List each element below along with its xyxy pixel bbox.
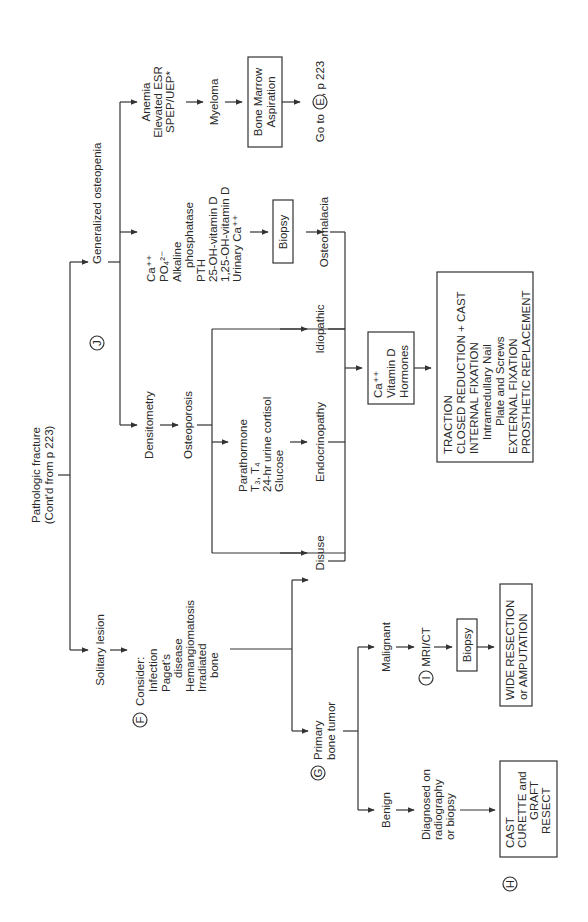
svg-text:Go to: Go to <box>314 114 326 142</box>
malignant-biopsy-label: Biopsy <box>461 627 473 662</box>
svg-text:GRAFT: GRAFT <box>528 781 540 820</box>
bone-marrow-label: Bone Marrow Aspiration <box>252 67 277 136</box>
cause-endocrinopathy: Endocrinopathy <box>314 402 326 482</box>
marker-i: I <box>420 676 432 679</box>
osteoporosis-tests: Parathormone T₃, T₄ 24-hr urine cortisol… <box>237 397 285 492</box>
goto-e: Go to E , p 223 <box>314 61 326 142</box>
osteomalacia: Osteomalacia <box>318 196 330 267</box>
svg-text:CURETTE and: CURETTE and <box>516 771 528 848</box>
svg-text:Elevated ESR: Elevated ESR <box>152 66 164 138</box>
svg-text:CLOSED REDUCTION + CAST: CLOSED REDUCTION + CAST <box>455 291 467 454</box>
svg-text:WIDE RESECTION: WIDE RESECTION <box>504 600 516 700</box>
svg-text:, p 223: , p 223 <box>314 61 326 96</box>
solitary-lesion: Solitary lesion <box>94 614 106 686</box>
svg-text:PROSTHETIC REPLACEMENT: PROSTHETIC REPLACEMENT <box>520 290 532 454</box>
malignant: Malignant <box>380 621 392 672</box>
svg-text:Alkaline: Alkaline <box>171 242 183 282</box>
svg-text:I: I <box>420 676 432 679</box>
svg-text:Infection: Infection <box>147 649 159 692</box>
svg-text:MRI/CT: MRI/CT <box>420 627 432 667</box>
svg-text:Osteomalacia: Osteomalacia <box>318 196 330 267</box>
svg-text:F: F <box>134 716 146 723</box>
wide-resection-text: WIDE RESECTION or AMPUTATION <box>504 600 529 700</box>
benign: Benign <box>380 792 392 828</box>
svg-text:Endocrinopathy: Endocrinopathy <box>314 402 326 482</box>
markers <box>90 95 517 891</box>
svg-text:bone tumor: bone tumor <box>325 702 337 760</box>
svg-text:Generalized osteopenia: Generalized osteopenia <box>91 142 103 264</box>
svg-text:24-hr urine cortisol: 24-hr urine cortisol <box>261 397 273 492</box>
root-node: Pathologic fracture (Cont'd from p 223) <box>30 425 55 524</box>
svg-text:or biopsy: or biopsy <box>444 793 456 840</box>
svg-text:EXTERNAL FIXATION: EXTERNAL FIXATION <box>507 338 519 454</box>
svg-text:Diagnosed on: Diagnosed on <box>420 769 432 840</box>
svg-text:25-OH-vitamin D: 25-OH-vitamin D <box>207 196 219 282</box>
svg-text:INTERNAL FIXATION: INTERNAL FIXATION <box>468 342 480 454</box>
svg-text:Pathologic fracture: Pathologic fracture <box>30 427 42 523</box>
svg-text:Glucose: Glucose <box>273 450 285 492</box>
svg-text:or AMPUTATION: or AMPUTATION <box>517 614 529 700</box>
svg-text:TRACTION: TRACTION <box>442 395 454 454</box>
myeloma-signs: Anemia Elevated ESR SPEP/UEP* <box>140 66 176 138</box>
marker-h: H <box>504 880 516 888</box>
svg-text:T₃, T₄: T₃, T₄ <box>249 462 261 492</box>
svg-text:G: G <box>312 768 324 777</box>
mri-ct: MRI/CT <box>420 627 432 667</box>
svg-text:Disuse: Disuse <box>314 535 326 570</box>
svg-text:Irradiated: Irradiated <box>196 643 208 692</box>
cause-disuse: Disuse <box>314 535 326 570</box>
lab-tests: Ca⁺⁺ PO₄²⁻ Alkaline phosphatase PTH 25-O… <box>145 187 243 282</box>
svg-text:(Cont'd from p 223): (Cont'd from p 223) <box>43 425 55 524</box>
osteoporosis: Osteoporosis <box>182 391 194 459</box>
svg-text:Malignant: Malignant <box>380 621 392 672</box>
svg-text:Solitary lesion: Solitary lesion <box>94 614 106 686</box>
svg-text:E: E <box>314 98 326 106</box>
svg-text:radiography: radiography <box>432 779 444 840</box>
svg-text:phosphatase: phosphatase <box>183 202 195 268</box>
consider-list: Consider: Infection Paget's disease Hema… <box>134 600 220 706</box>
densitometry: Densitometry <box>143 391 155 459</box>
flowchart-canvas: Pathologic fracture (Cont'd from p 223) … <box>0 0 588 922</box>
svg-text:Bone Marrow: Bone Marrow <box>252 67 264 136</box>
cause-idiopathic: Idiopathic <box>314 304 326 353</box>
flowchart: Pathologic fracture (Cont'd from p 223) … <box>0 0 588 922</box>
svg-text:RESECT: RESECT <box>540 787 552 834</box>
svg-text:PO₄²⁻: PO₄²⁻ <box>158 251 170 282</box>
svg-text:Vitamin D: Vitamin D <box>385 348 397 398</box>
diagnosed-text: Diagnosed on radiography or biopsy <box>420 769 456 840</box>
svg-text:PTH: PTH <box>195 259 207 282</box>
svg-text:Consider:: Consider: <box>134 657 146 706</box>
svg-text:bone: bone <box>208 652 220 678</box>
svg-text:J: J <box>91 340 103 346</box>
svg-text:Parathormone: Parathormone <box>237 419 249 492</box>
svg-text:Benign: Benign <box>380 792 392 828</box>
marker-g: G <box>312 768 324 777</box>
svg-text:Ca⁺⁺: Ca⁺⁺ <box>145 255 157 282</box>
svg-text:Anemia: Anemia <box>140 82 152 122</box>
primary-bone-tumor: Primary bone tumor <box>312 702 337 760</box>
svg-text:disease: disease <box>172 638 184 678</box>
generalized-osteopenia: Generalized osteopenia <box>91 142 103 264</box>
marker-j: J <box>91 340 103 346</box>
svg-text:Biopsy: Biopsy <box>277 214 289 249</box>
svg-text:Densitometry: Densitometry <box>143 391 155 459</box>
svg-text:SPEP/UEP*: SPEP/UEP* <box>164 70 176 133</box>
svg-text:Primary: Primary <box>312 720 324 760</box>
svg-text:Urinary Ca⁺⁺: Urinary Ca⁺⁺ <box>231 215 243 282</box>
lab-biopsy-label: Biopsy <box>277 214 289 249</box>
boxes <box>248 57 557 857</box>
svg-text:CAST: CAST <box>504 817 516 848</box>
svg-text:Intramedullary Nail: Intramedullary Nail <box>481 344 493 440</box>
svg-text:H: H <box>504 880 516 888</box>
svg-text:Myeloma: Myeloma <box>208 78 220 125</box>
svg-text:Hormones: Hormones <box>398 345 410 398</box>
svg-text:Hemangiomatosis: Hemangiomatosis <box>184 600 196 692</box>
svg-text:Aspiration: Aspiration <box>265 76 277 127</box>
svg-text:Biopsy: Biopsy <box>461 627 473 662</box>
svg-text:1,25-OH-vitamin D: 1,25-OH-vitamin D <box>219 187 231 282</box>
svg-text:Osteoporosis: Osteoporosis <box>182 391 194 459</box>
myeloma: Myeloma <box>208 78 220 125</box>
marker-f: F <box>134 716 146 723</box>
svg-text:Idiopathic: Idiopathic <box>314 304 326 353</box>
svg-text:Ca⁺⁺: Ca⁺⁺ <box>372 371 384 398</box>
